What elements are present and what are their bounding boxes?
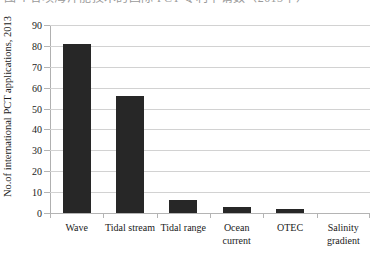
bars-layer <box>50 25 370 213</box>
y-axis-tick-label: 80 <box>32 40 42 51</box>
y-axis-tick-label: 50 <box>32 103 42 114</box>
y-axis-tick-mark <box>44 213 50 214</box>
bar-slot <box>317 25 370 213</box>
x-axis-tick-mark <box>50 213 51 218</box>
x-axis-tick-marks <box>50 213 370 219</box>
bar-slot <box>263 25 316 213</box>
y-axis-tick-label: 0 <box>37 208 42 219</box>
y-axis-tick-label: 10 <box>32 187 42 198</box>
x-axis-category-label: Wave <box>50 222 103 235</box>
x-axis-category-labels: WaveTidal streamTidal rangeOcean current… <box>50 222 370 260</box>
y-axis-title-text: No.of international PCT applications, 20… <box>3 16 14 197</box>
x-axis-tick-mark <box>263 213 264 218</box>
x-axis-tick-mark <box>210 213 211 218</box>
y-axis-title: No.of international PCT applications, 20… <box>0 0 16 213</box>
x-axis-tick-mark <box>317 213 318 218</box>
bar[interactable] <box>63 44 91 213</box>
bar-slot <box>210 25 263 213</box>
x-axis-tick-mark <box>103 213 104 218</box>
x-axis-category-label: Tidal stream <box>103 222 156 235</box>
y-axis-tick-mark <box>44 25 50 26</box>
bar-chart: No.of international PCT applications, 20… <box>0 0 375 262</box>
y-axis-tick-mark <box>44 88 50 89</box>
y-axis-tick-label: 40 <box>32 124 42 135</box>
x-axis-category-label: Ocean current <box>210 222 263 247</box>
y-axis-tick-labels: 0102030405060708090 <box>18 25 46 213</box>
y-axis-tick-label: 20 <box>32 166 42 177</box>
bar[interactable] <box>169 200 197 213</box>
y-axis-tick-mark <box>44 129 50 130</box>
bar-slot <box>157 25 210 213</box>
x-axis-tick-mark <box>157 213 158 218</box>
chart-page: 图 4 各项海洋能技术的国际 PCT 专利申请数（2013年） No.of in… <box>0 0 375 262</box>
y-axis-tick-mark <box>44 109 50 110</box>
x-axis-category-label: Salinity gradient <box>317 222 370 247</box>
y-axis-tick-mark <box>44 150 50 151</box>
x-axis-category-label: Tidal range <box>157 222 210 235</box>
y-axis-tick-mark <box>44 192 50 193</box>
y-axis-tick-label: 60 <box>32 82 42 93</box>
x-axis-category-label: OTEC <box>263 222 316 235</box>
y-axis-tick-label: 90 <box>32 20 42 31</box>
bar[interactable] <box>116 96 144 213</box>
x-axis-tick-mark <box>369 213 370 218</box>
bar-slot <box>50 25 103 213</box>
plot-area <box>50 25 370 213</box>
y-axis-tick-mark <box>44 46 50 47</box>
y-axis-tick-label: 30 <box>32 145 42 156</box>
y-axis-tick-label: 70 <box>32 61 42 72</box>
bar-slot <box>103 25 156 213</box>
y-axis-tick-mark <box>44 67 50 68</box>
y-axis-tick-mark <box>44 171 50 172</box>
